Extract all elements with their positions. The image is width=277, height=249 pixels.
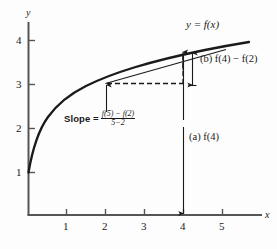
- x-tick-label-3: 3: [141, 221, 147, 232]
- annotation-a-text: (a) f(4): [189, 131, 219, 142]
- slope-label-text: Slope =: [64, 114, 99, 124]
- slope-fraction: f(5) − f(2) 5−2: [101, 110, 136, 128]
- x-tick-label-5: 5: [219, 221, 225, 232]
- annotation-b-text: (b) f(4) − f(2): [200, 53, 258, 64]
- x-tick-label-1: 1: [63, 221, 69, 232]
- slope-annotation: Slope = f(5) − f(2) 5−2: [64, 110, 135, 128]
- y-tick-label-2: 2: [16, 123, 22, 134]
- annotation-b-label: (b) f(4) − f(2): [200, 54, 258, 65]
- y-tick-label-4: 4: [16, 35, 22, 46]
- x-tick-label-4: 4: [180, 221, 186, 232]
- curve-label: y = f(x): [186, 19, 219, 30]
- plot-canvas: [0, 0, 277, 249]
- x-axis-label: x: [265, 210, 269, 220]
- annotation-a-label: (a) f(4): [189, 132, 219, 143]
- y-tick-label-1: 1: [16, 167, 22, 178]
- y-axis-label: y: [26, 8, 30, 18]
- x-tick-label-2: 2: [102, 221, 108, 232]
- figure-container: 4 3 2 1 1 2 3 4 5 y x y = f(x) (b) f(4) …: [0, 0, 277, 249]
- y-tick-label-3: 3: [16, 79, 22, 90]
- slope-fraction-denominator: 5−2: [101, 119, 136, 127]
